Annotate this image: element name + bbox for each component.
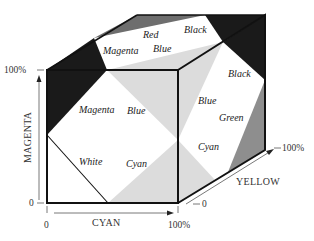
magenta-min-label: 0 xyxy=(29,198,34,208)
label-top-red: Red xyxy=(142,29,160,40)
label-side-green: Green xyxy=(219,112,244,123)
cyan-min-label: 0 xyxy=(44,220,49,230)
cyan-axis-label: CYAN xyxy=(92,217,120,228)
cyan-max-label: 100% xyxy=(168,220,190,230)
magenta-arrow-head-icon xyxy=(37,75,42,82)
label-side-black: Black xyxy=(228,68,251,79)
yellow-min-label: 0 xyxy=(202,199,207,209)
magenta-axis: 100% 0 MAGENTA xyxy=(4,65,44,208)
label-top-black: Black xyxy=(184,24,207,35)
yellow-max-label: 100% xyxy=(282,143,304,153)
yellow-arrow-head-icon xyxy=(266,149,274,155)
label-front-magenta: Magenta xyxy=(78,104,115,115)
yellow-axis-label: YELLOW xyxy=(236,176,280,187)
cyan-axis: 0 100% CYAN xyxy=(44,206,190,230)
front-face xyxy=(47,70,178,203)
label-front-cyan: Cyan xyxy=(126,158,147,169)
cmy-cube-diagram: Red Black Magenta Blue Magenta Blue Whit… xyxy=(0,0,314,241)
cyan-arrow-head-icon xyxy=(167,211,174,216)
label-front-white: White xyxy=(79,156,103,167)
label-top-blue: Blue xyxy=(153,43,172,54)
magenta-max-label: 100% xyxy=(4,65,26,75)
label-front-blue: Blue xyxy=(127,105,146,116)
label-top-magenta: Magenta xyxy=(102,45,139,56)
label-side-blue: Blue xyxy=(198,95,217,106)
label-side-cyan: Cyan xyxy=(198,141,219,152)
magenta-axis-label: MAGENTA xyxy=(22,111,33,163)
